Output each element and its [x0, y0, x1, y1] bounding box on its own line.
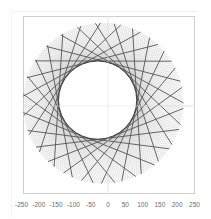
x-tick-label: 250: [189, 201, 200, 208]
x-tick-label: -250: [15, 201, 28, 208]
x-tick-label: 200: [172, 201, 183, 208]
x-tick-label: -100: [67, 201, 80, 208]
inner-envelope-circle: [59, 61, 137, 139]
x-tick-label: 50: [122, 201, 129, 208]
x-tick-label: -50: [86, 201, 95, 208]
star-figure-plot: [23, 16, 195, 194]
x-tick-label: 150: [154, 201, 165, 208]
x-tick-label: 100: [137, 201, 148, 208]
x-tick-label: 0: [106, 201, 110, 208]
x-tick-label: -150: [50, 201, 63, 208]
x-tick-label: -200: [32, 201, 45, 208]
